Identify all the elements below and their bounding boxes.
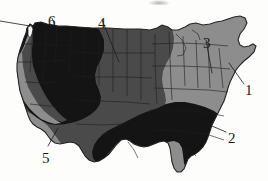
- leader-line-2: [212, 126, 226, 132]
- callout-label-1: 1: [245, 83, 253, 98]
- edge-leader-line: [0, 21, 30, 26]
- callout-label-4: 4: [98, 16, 106, 31]
- callout-label-3: 3: [203, 36, 211, 51]
- callout-label-6: 6: [48, 14, 56, 29]
- region-shade-darkest-west: [14, 18, 104, 125]
- callout-label-2: 2: [228, 131, 236, 146]
- callout-label-5: 5: [42, 151, 50, 166]
- map-graphic: [0, 0, 268, 181]
- us-shaded-region-map: 1 2 3 4 5 6: [0, 0, 268, 181]
